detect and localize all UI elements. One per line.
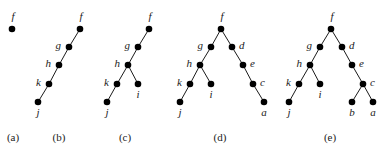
node-f	[328, 26, 335, 33]
node-label-f: f	[148, 10, 153, 22]
node-k	[296, 81, 303, 88]
node-label-k: k	[104, 76, 110, 88]
node-label-b: b	[349, 106, 355, 118]
panel-b: fghkj	[34, 10, 84, 118]
node-label-f: f	[79, 10, 84, 22]
node-i	[208, 81, 215, 88]
node-label-a: a	[370, 106, 376, 118]
node-h	[197, 62, 204, 69]
node-k	[114, 81, 121, 88]
node-label-h: h	[297, 57, 303, 69]
caption-b: (b)	[53, 131, 66, 144]
node-label-j: j	[103, 106, 108, 118]
node-label-h: h	[46, 57, 52, 69]
node-label-i: i	[136, 88, 139, 100]
caption-a: (a)	[7, 131, 20, 144]
panel-c: fghkji	[103, 10, 153, 118]
node-b	[349, 99, 356, 106]
node-d	[339, 44, 346, 51]
node-e	[240, 62, 247, 69]
node-g	[135, 44, 142, 51]
node-c	[360, 81, 367, 88]
node-label-j: j	[285, 106, 290, 118]
node-label-h: h	[115, 57, 121, 69]
caption-e: (e)	[324, 131, 337, 144]
node-label-k: k	[36, 76, 42, 88]
caption-c: (c)	[119, 131, 132, 144]
node-label-e: e	[359, 57, 364, 69]
node-label-f: f	[330, 10, 335, 22]
node-k	[187, 81, 194, 88]
panel-d: fghkjideca	[176, 10, 267, 118]
node-d	[229, 44, 236, 51]
node-label-f: f	[220, 10, 225, 22]
caption-d: (d)	[214, 131, 227, 144]
node-j	[286, 99, 293, 106]
node-label-i: i	[209, 88, 212, 100]
node-label-k: k	[286, 76, 292, 88]
node-label-f: f	[11, 10, 16, 22]
node-label-d: d	[349, 39, 355, 51]
node-label-g: g	[307, 39, 313, 51]
node-j	[177, 99, 184, 106]
node-f	[77, 26, 84, 33]
node-label-k: k	[177, 76, 183, 88]
node-label-g: g	[198, 39, 204, 51]
node-h	[125, 62, 132, 69]
node-label-c: c	[370, 76, 375, 88]
node-c	[250, 81, 257, 88]
panel-e: fghkjidecba	[285, 10, 376, 118]
node-f	[9, 26, 16, 33]
node-j	[35, 99, 42, 106]
node-a	[261, 99, 268, 106]
node-label-e: e	[250, 57, 255, 69]
node-label-h: h	[187, 57, 193, 69]
node-h	[307, 62, 314, 69]
node-i	[317, 81, 324, 88]
node-f	[218, 26, 225, 33]
node-label-c: c	[260, 76, 265, 88]
node-g	[317, 44, 324, 51]
node-label-i: i	[318, 88, 321, 100]
node-label-g: g	[56, 39, 62, 51]
tree-construction-diagram: f fghkj fghkji fghkjideca fghkjidecba (a…	[0, 0, 385, 153]
node-i	[135, 81, 142, 88]
node-label-j: j	[34, 106, 39, 118]
node-j	[104, 99, 111, 106]
node-f	[146, 26, 153, 33]
node-label-j: j	[176, 106, 181, 118]
panel-a: f	[9, 10, 17, 32]
node-a	[370, 99, 377, 106]
node-g	[208, 44, 215, 51]
node-label-d: d	[239, 39, 245, 51]
node-e	[349, 62, 356, 69]
node-label-a: a	[261, 106, 267, 118]
node-k	[46, 81, 53, 88]
node-h	[56, 62, 63, 69]
node-label-g: g	[125, 39, 131, 51]
node-g	[66, 44, 73, 51]
